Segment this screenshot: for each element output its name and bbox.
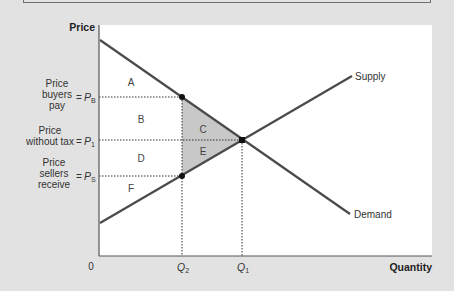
pb-desc-line-1: Price: [46, 78, 69, 89]
y-axis-title: Price: [69, 21, 95, 33]
p1-equals: =: [76, 136, 82, 147]
ps-descriptor: Price sellers receive = PS: [38, 157, 96, 190]
q1-label: Q1: [237, 261, 249, 274]
pb-desc-line-2: buyers: [42, 89, 72, 100]
pb-symbol: PB: [84, 91, 96, 104]
buyer-price-point: [179, 94, 185, 100]
plot-area: [99, 25, 432, 256]
supply-label: Supply: [355, 71, 386, 82]
ps-desc-line-2: sellers: [40, 168, 69, 179]
region-d-label: D: [137, 153, 144, 164]
ps-desc-line-3: receive: [38, 179, 71, 190]
ps-desc-line-1: Price: [43, 157, 66, 168]
pb-descriptor: Price buyers pay = PB: [42, 78, 96, 111]
region-e-label: E: [200, 146, 207, 157]
origin-label: 0: [88, 261, 94, 272]
equilibrium-point: [239, 137, 245, 143]
q2-label: Q2: [177, 261, 189, 274]
region-b-label: B: [138, 114, 145, 125]
pb-desc-line-3: pay: [49, 100, 65, 111]
region-f-label: F: [128, 183, 134, 194]
region-a-label: A: [128, 77, 135, 88]
ps-equals: =: [76, 171, 82, 182]
x-axis-title: Quantity: [389, 261, 432, 273]
pb-equals: =: [76, 92, 82, 103]
seller-price-point: [179, 173, 185, 179]
ps-symbol: PS: [84, 170, 96, 183]
region-c-label: C: [199, 124, 206, 135]
demand-label: Demand: [354, 209, 392, 220]
p1-desc-line-1: Price: [39, 125, 62, 136]
tax-incidence-diagram: Price Quantity 0 Supply Demand A B C D E…: [0, 0, 454, 291]
p1-descriptor: Price without tax = P1: [25, 125, 95, 148]
p1-symbol: P1: [84, 135, 95, 148]
p1-desc-line-2: without tax: [25, 136, 74, 147]
